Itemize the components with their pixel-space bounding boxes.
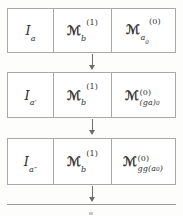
arrow-row2-to-row3: [88, 119, 97, 137]
math-expression-M-a0-0: ℳa0(0): [126, 23, 160, 38]
arrow-head: [89, 130, 95, 135]
cell-r3c2: ℳb(1): [54, 139, 112, 184]
cell-r3c3: ℳ(0)gg(a0): [112, 139, 175, 184]
math-expression-M-b-1: ℳb(1): [67, 89, 98, 102]
math-expression-I-adoubleprime: Ia″: [24, 155, 37, 168]
cell-r1c2: ℳb(1): [54, 9, 112, 52]
math-expression-M-ga0-0: ℳ(0)(ga)0: [125, 89, 161, 102]
cell-r2c3: ℳ(0)(ga)0: [112, 73, 175, 117]
math-expression-I-aprime: Ia′: [24, 89, 36, 102]
math-expression-M-b-1: ℳb(1): [67, 24, 98, 37]
arrow-head: [89, 197, 95, 202]
math-expression-I-a: Ia: [25, 24, 35, 37]
diagram-row-3: Ia″ ℳb(1) ℳ(0)gg(a0): [7, 138, 176, 185]
math-diagram: Ia ℳb(1) ℳa0(0) Ia′ ℳb(1) ℳ(0)(ga)0 Ia″: [0, 0, 183, 216]
diagram-row-1: Ia ℳb(1) ℳa0(0): [7, 8, 176, 53]
cell-r3c1: Ia″: [8, 139, 54, 184]
math-expression-M-gga0-0: ℳ(0)gg(a0): [123, 155, 163, 168]
cell-r1c3: ℳa0(0): [112, 9, 175, 52]
next-box-top-edge: [7, 204, 176, 205]
arrow-row3-to-next: [88, 186, 97, 204]
math-expression-M-b-1: ℳb(1): [67, 155, 98, 168]
arrow-row1-to-row2: [88, 54, 97, 71]
next-box-partial-glyph: [89, 212, 93, 215]
cell-r1c1: Ia: [8, 9, 54, 52]
cell-r2c2: ℳb(1): [54, 73, 112, 117]
cell-r2c1: Ia′: [8, 73, 54, 117]
arrow-head: [89, 65, 95, 70]
diagram-row-2: Ia′ ℳb(1) ℳ(0)(ga)0: [7, 72, 176, 118]
